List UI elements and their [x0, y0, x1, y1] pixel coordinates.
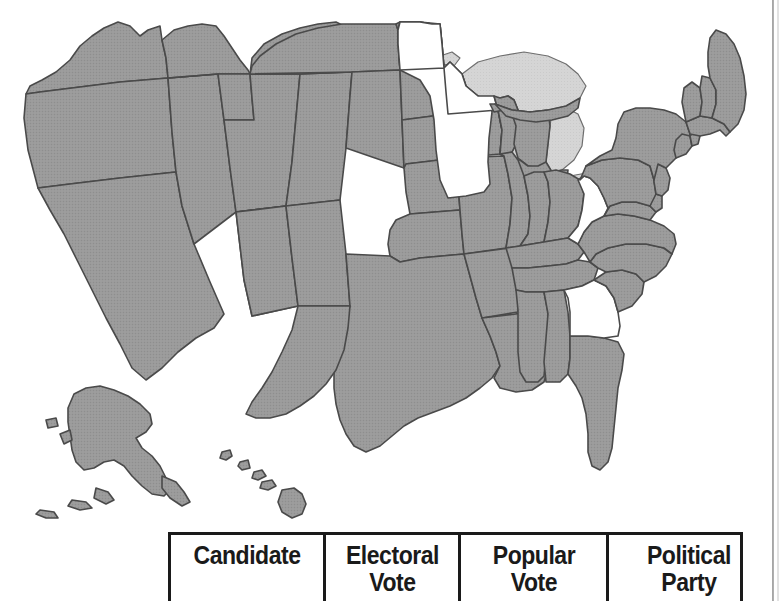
column-header-party-line2: Party [661, 568, 716, 596]
state-vermont [682, 82, 702, 122]
column-header-popular-vote: Popular Vote [465, 535, 601, 601]
state-idaho-north [162, 24, 250, 78]
state-oklahoma [388, 210, 464, 262]
table-header-row: Candidate Electoral Vote Popular Vote Po… [171, 535, 768, 601]
alaska-aleutians-1 [94, 488, 114, 504]
table-header: Candidate Electoral Vote Popular Vote Po… [171, 535, 768, 601]
alaska-aleutians-3 [36, 510, 58, 518]
column-header-party-line1: Political [646, 541, 730, 569]
hawaii-kauai [220, 450, 232, 460]
state-montana [250, 24, 400, 74]
column-header-candidate-label: Candidate [194, 541, 301, 569]
hawaii-molokai [252, 470, 266, 480]
state-mississippi [516, 290, 548, 382]
state-new-mexico [286, 200, 350, 306]
alaska-island-2 [46, 418, 58, 428]
column-header-electoral-line1: Electoral [345, 541, 438, 569]
hawaii-big-island [278, 488, 306, 518]
column-header-candidate: Candidate [177, 535, 318, 601]
state-texas-west [246, 306, 350, 418]
column-header-electoral-line2: Vote [369, 568, 415, 596]
alaska-panhandle [162, 476, 190, 506]
results-table-element: Candidate Electoral Vote Popular Vote Po… [171, 535, 768, 601]
state-oregon [24, 78, 176, 188]
column-header-political-party: Political Party [614, 535, 762, 601]
us-electoral-map [0, 0, 760, 528]
state-florida [568, 336, 624, 470]
state-alabama [544, 290, 570, 382]
column-header-electoral-vote: Electoral Vote [330, 535, 454, 601]
hawaii-oahu [238, 460, 250, 470]
state-maine [708, 30, 746, 132]
scan-page-edge-line [772, 0, 774, 601]
figure-page: Candidate Electoral Vote Popular Vote Po… [0, 0, 779, 601]
election-results-table: Candidate Electoral Vote Popular Vote Po… [168, 532, 743, 601]
us-map-svg [0, 0, 760, 528]
column-header-popular-line2: Vote [510, 568, 556, 596]
column-header-popular-line1: Popular [492, 541, 574, 569]
state-alaska [68, 386, 170, 496]
state-wyoming [346, 70, 404, 168]
alaska-aleutians-2 [68, 500, 92, 510]
hawaii-maui [260, 480, 276, 490]
